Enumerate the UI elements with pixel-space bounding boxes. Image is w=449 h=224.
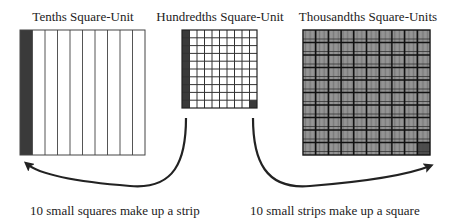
diagram-canvas bbox=[0, 0, 449, 224]
hundredths-grid bbox=[182, 30, 257, 108]
tenths-grid bbox=[20, 30, 145, 155]
thousandths-grid bbox=[303, 30, 430, 155]
right-caption: 10 small strips make up a square bbox=[250, 203, 420, 219]
left-caption: 10 small squares make up a strip bbox=[30, 203, 200, 219]
hundredths-to-tenths-arrow bbox=[27, 118, 186, 186]
